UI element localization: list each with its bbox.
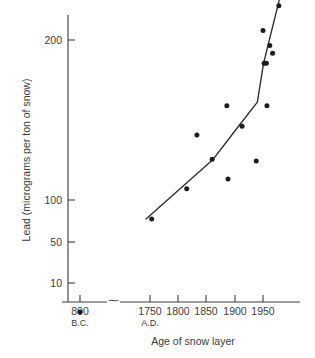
data-point <box>210 157 215 162</box>
x-tick-label-1850: 1850 <box>194 305 218 317</box>
data-point <box>149 217 154 222</box>
data-point <box>194 133 199 138</box>
data-point <box>78 309 83 314</box>
lead-in-snow-chart: ⁓ 200 100 50 10 800 B.C. 1750 A.D. 1800 … <box>0 0 315 358</box>
y-tick-label-50: 50 <box>50 236 62 248</box>
trend-line <box>146 0 279 219</box>
x-era-label-bc: B.C. <box>71 318 89 328</box>
data-point <box>224 103 229 108</box>
y-tick-label-100: 100 <box>44 194 62 206</box>
y-tick-label-200: 200 <box>44 34 62 46</box>
chart-canvas: ⁓ 200 100 50 10 800 B.C. 1750 A.D. 1800 … <box>0 0 315 358</box>
data-point <box>267 43 272 48</box>
x-tick-label-1900: 1900 <box>223 305 247 317</box>
data-point-group <box>78 3 282 314</box>
y-axis-title: Lead (micrograms per ton of snow) <box>20 79 32 242</box>
data-point <box>240 124 245 129</box>
data-point <box>225 177 230 182</box>
data-point <box>261 28 266 33</box>
data-point <box>184 186 189 191</box>
x-era-label-ad: A.D. <box>141 318 159 328</box>
data-point <box>254 159 259 164</box>
data-point <box>270 51 275 56</box>
x-axis-title: Age of snow layer <box>151 335 235 347</box>
data-point <box>264 103 269 108</box>
data-point <box>276 3 281 8</box>
axis-break-icon: ⁓ <box>108 294 119 306</box>
x-tick-label-1800: 1800 <box>166 305 190 317</box>
y-tick-label-10: 10 <box>50 277 62 289</box>
x-tick-label-1750: 1750 <box>138 305 162 317</box>
x-tick-label-1950: 1950 <box>251 305 275 317</box>
data-point <box>264 61 269 66</box>
